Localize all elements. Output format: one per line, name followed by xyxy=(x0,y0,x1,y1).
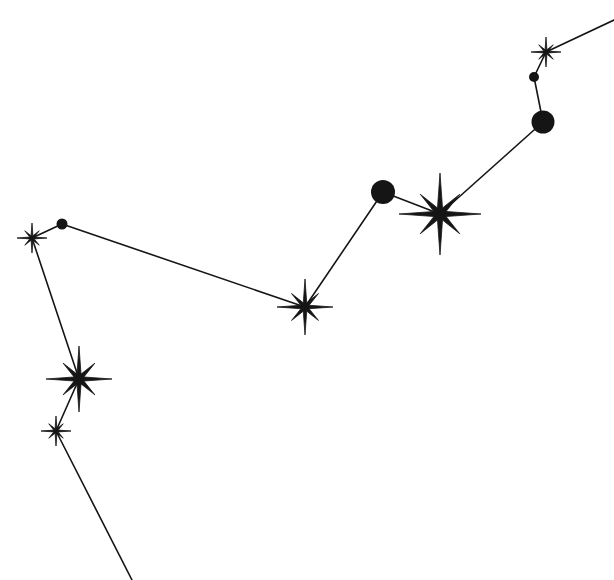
star-burst-icon xyxy=(41,416,71,446)
star-dot-icon xyxy=(532,111,555,134)
stars xyxy=(17,37,561,446)
constellation-line xyxy=(305,192,383,307)
constellation-svg xyxy=(0,0,614,580)
constellation-line xyxy=(56,379,79,431)
star-burst-icon xyxy=(46,346,112,412)
constellation-line xyxy=(546,20,614,52)
star-dot-icon xyxy=(371,180,395,204)
star-burst-icon xyxy=(399,173,481,255)
connecting-lines xyxy=(32,20,614,580)
constellation-line xyxy=(62,224,305,307)
star-burst-icon xyxy=(531,37,561,67)
star-burst-icon xyxy=(17,223,47,253)
constellation-diagram xyxy=(0,0,614,580)
star-dot-icon xyxy=(57,219,68,230)
star-burst-icon xyxy=(277,279,333,335)
constellation-line xyxy=(56,431,132,580)
constellation-line xyxy=(32,238,79,379)
star-dot-icon xyxy=(529,72,539,82)
